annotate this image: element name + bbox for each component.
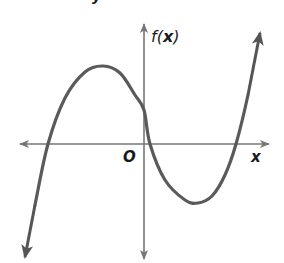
cropped-text-fragment: y [92, 0, 101, 3]
origin-label: O [123, 150, 136, 165]
cubic-function-graph: y f(x) O x [0, 0, 284, 263]
x-axis-label: x [251, 150, 261, 165]
y-axis-label: f(x) [151, 29, 179, 45]
y-axis-label-var: x [163, 27, 173, 46]
function-curve [35, 66, 248, 205]
curve-right-arrow-icon [248, 33, 260, 95]
curve-left-arrow-icon [25, 205, 35, 257]
graph-canvas [0, 0, 284, 263]
y-axis-label-close: ) [173, 27, 179, 46]
